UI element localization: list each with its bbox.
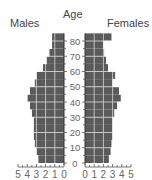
male-bar <box>43 64 64 72</box>
female-bar <box>85 133 113 141</box>
female-bar <box>85 87 119 95</box>
mask <box>16 117 34 125</box>
male-bar <box>52 41 64 49</box>
mask <box>16 140 35 148</box>
mask <box>16 79 35 87</box>
mask <box>16 71 36 79</box>
male-bar <box>47 56 64 64</box>
age-tick-label: 40 <box>70 97 81 108</box>
age-tick-label: 20 <box>70 127 81 138</box>
population-pyramid: 01020304050607080543210012345 <box>0 0 152 180</box>
female-bar <box>85 49 104 57</box>
male-bar <box>38 155 64 163</box>
mask <box>115 71 133 79</box>
female-x-tick-label: 1 <box>91 169 97 180</box>
female-bar <box>85 140 112 148</box>
age-tick-label: 70 <box>70 51 81 62</box>
male-bar <box>30 102 64 110</box>
female-bar <box>85 94 121 102</box>
male-bar <box>34 125 64 133</box>
male-bar <box>52 33 64 41</box>
female-bar <box>85 33 112 41</box>
male-bar <box>36 148 64 156</box>
mask <box>108 64 133 72</box>
mask <box>16 147 36 155</box>
female-bar <box>85 79 113 87</box>
mask <box>16 48 49 56</box>
age-tick-label: 30 <box>70 112 81 123</box>
male-bar <box>36 72 64 80</box>
male-bar <box>30 87 64 95</box>
mask <box>111 147 133 155</box>
female-x-tick-label: 2 <box>101 169 107 180</box>
mask <box>114 109 133 117</box>
female-bar <box>85 110 114 118</box>
male-bar <box>35 79 64 87</box>
female-bar <box>85 155 109 163</box>
mask <box>113 79 133 87</box>
mask <box>16 41 52 49</box>
mask <box>121 94 133 102</box>
mask <box>103 41 133 49</box>
female-x-tick-label: 4 <box>119 169 125 180</box>
mask <box>16 102 30 110</box>
male-x-tick-label: 3 <box>34 169 40 180</box>
male-x-tick-label: 0 <box>61 169 67 180</box>
mask <box>109 155 133 163</box>
mask <box>113 125 133 133</box>
mask <box>112 140 133 148</box>
age-tick-label: 80 <box>70 36 81 47</box>
male-bar <box>34 117 64 125</box>
mask <box>113 117 133 125</box>
mask <box>16 56 47 64</box>
mask <box>104 48 133 56</box>
female-bar <box>85 117 113 125</box>
mask <box>106 56 133 64</box>
female-bar <box>85 125 113 133</box>
female-bar <box>85 64 108 72</box>
male-x-tick-label: 5 <box>15 169 21 180</box>
male-bar <box>35 140 64 148</box>
mask <box>16 33 52 41</box>
mask <box>113 132 133 140</box>
mask <box>119 86 133 94</box>
mask <box>16 109 32 117</box>
age-tick-label: 50 <box>70 81 81 92</box>
male-bar <box>49 49 64 57</box>
mask <box>16 64 43 72</box>
mask <box>117 102 133 110</box>
mask <box>16 94 27 102</box>
male-x-tick-label: 1 <box>52 169 58 180</box>
male-bar <box>34 133 64 141</box>
female-x-tick-label: 0 <box>82 169 88 180</box>
female-bar <box>85 56 106 64</box>
male-x-tick-label: 2 <box>43 169 49 180</box>
mask <box>16 132 34 140</box>
female-x-tick-label: 3 <box>110 169 116 180</box>
age-tick-label: 60 <box>70 66 81 77</box>
female-bar <box>85 148 111 156</box>
mask <box>112 33 133 41</box>
mask <box>16 155 38 163</box>
age-tick-label: 0 <box>72 158 77 169</box>
male-x-tick-label: 4 <box>24 169 30 180</box>
female-bar <box>85 72 115 80</box>
female-x-tick-label: 5 <box>128 169 134 180</box>
age-tick-label: 10 <box>70 142 81 153</box>
mask <box>16 86 30 94</box>
mask <box>16 125 34 133</box>
